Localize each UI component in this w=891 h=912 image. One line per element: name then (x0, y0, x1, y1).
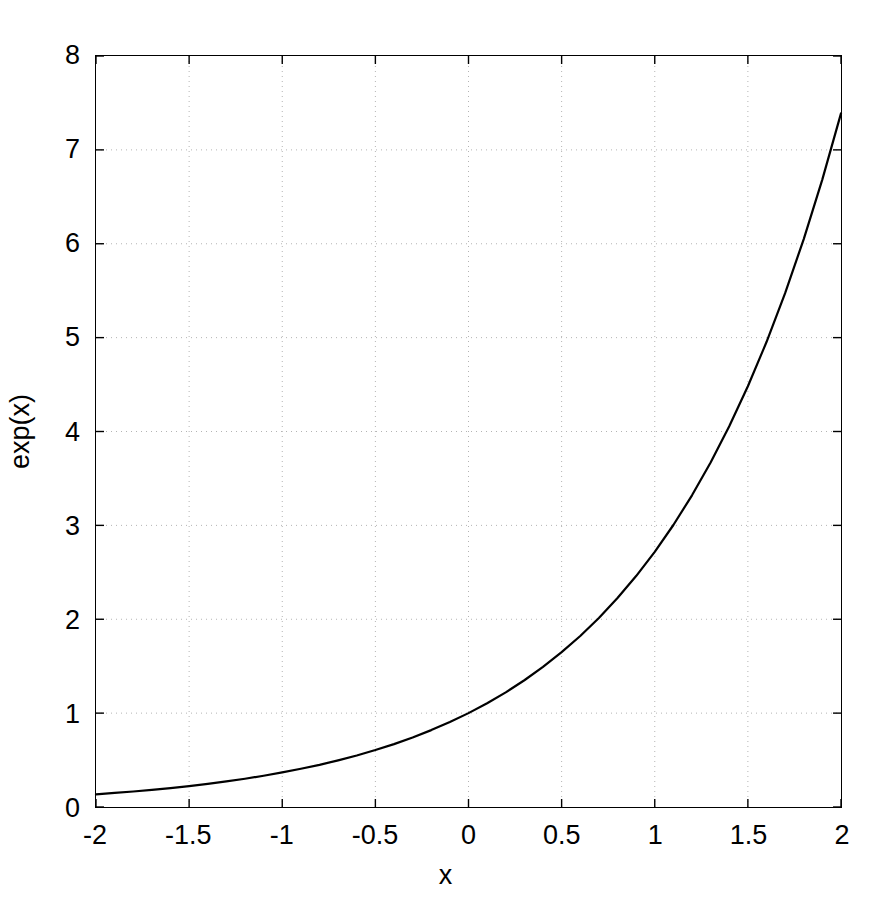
y-tick-label: 1 (65, 700, 80, 727)
x-tick-label: 0 (461, 822, 476, 849)
y-tick-label: 6 (65, 230, 80, 257)
y-axis-title: exp(x) (7, 394, 34, 469)
figure-canvas: 012345678 exp(x) -2-1.5-1-0.500.511.52 x (0, 0, 891, 912)
y-tick-label: 7 (65, 136, 80, 163)
x-tick-label-group: -2-1.5-1-0.500.511.52 (0, 822, 891, 862)
y-tick-label: 8 (65, 42, 80, 69)
y-tick-label: 4 (65, 418, 80, 445)
x-tick-label: -1 (270, 822, 294, 849)
x-tick-label: -0.5 (352, 822, 399, 849)
x-axis-title: x (0, 862, 891, 889)
x-tick-label: -2 (83, 822, 107, 849)
x-tick-label: 1 (648, 822, 663, 849)
plot-area (95, 55, 842, 808)
data-series-line-expx (96, 113, 841, 794)
y-axis-title-container: exp(x) (0, 55, 40, 808)
x-tick-label: 2 (834, 822, 849, 849)
x-tick-label: 1.5 (730, 822, 768, 849)
x-tick-label: -1.5 (165, 822, 212, 849)
vertical-gridlines (189, 56, 748, 807)
y-tick-label: 5 (65, 324, 80, 351)
x-tick-label: 0.5 (543, 822, 581, 849)
y-tick-label: 0 (65, 795, 80, 822)
y-tick-label: 3 (65, 512, 80, 539)
plot-svg (96, 56, 841, 807)
y-tick-label: 2 (65, 606, 80, 633)
